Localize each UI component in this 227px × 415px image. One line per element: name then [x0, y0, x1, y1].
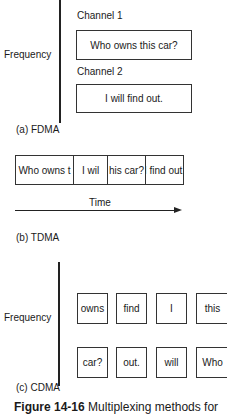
cdma-code-box: Who	[196, 347, 227, 378]
arrow-right-icon	[174, 207, 182, 213]
fdma-frequency-axis	[59, 0, 61, 123]
cdma-code-box: will	[156, 347, 187, 378]
fdma-frequency-label: Frequency	[4, 49, 51, 60]
tdma-slot: his car?	[108, 156, 146, 184]
time-axis-label: Time	[89, 197, 111, 208]
tdma-timeline: Who owns t I wil his car? I find out.	[15, 155, 184, 185]
cdma-frequency-label: Frequency	[4, 312, 51, 323]
cdma-code-box: car?	[77, 347, 108, 378]
channel-1-box: Who owns this car?	[76, 30, 192, 60]
channel-1-label: Channel 1	[77, 10, 123, 21]
tdma-caption: (b) TDMA	[16, 232, 59, 243]
channel-2-box: I will find out.	[76, 84, 192, 113]
cdma-code-box: I	[156, 293, 187, 324]
cdma-code-box: find	[116, 293, 147, 324]
cdma-code-box: owns	[77, 293, 108, 324]
cdma-caption: (c) CDMA	[16, 382, 60, 393]
time-axis-line	[15, 210, 175, 211]
cdma-code-box: out.	[116, 347, 147, 378]
tdma-slot: I find out.	[146, 156, 183, 184]
tdma-slot: I wil	[74, 156, 108, 184]
figure-caption: Figure 14-16 Multiplexing methods for	[14, 400, 218, 414]
cdma-code-box: this	[196, 293, 227, 324]
fdma-caption: (a) FDMA	[16, 124, 59, 135]
cdma-frequency-axis	[58, 262, 60, 386]
channel-2-label: Channel 2	[77, 66, 123, 77]
figure-title: Multiplexing methods for	[88, 400, 218, 414]
tdma-slot: Who owns t	[16, 156, 74, 184]
figure-number: Figure 14-16	[14, 400, 85, 414]
